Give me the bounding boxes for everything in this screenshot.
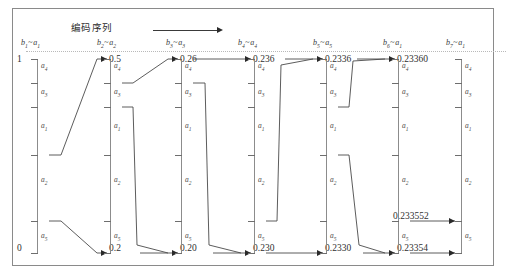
connector-6-7 — [13, 9, 495, 267]
col7-symbol-2: a1 — [465, 121, 471, 132]
col7-symbol-1: a3 — [465, 87, 471, 98]
figure-frame: 编码序列 b1~a1 b2~a2 b3~a3 b4~a4 b5~a5 b6~a1… — [12, 8, 494, 266]
arithmetic-coding-figure: 编码序列 b1~a1 b2~a2 b3~a3 b4~a4 b5~a5 b6~a1… — [0, 0, 506, 275]
col7-symbol-3: a2 — [465, 175, 471, 186]
col7-tick-3 — [455, 155, 462, 156]
col7-tick-2 — [455, 107, 462, 108]
col7-symbol-0: a4 — [465, 61, 471, 72]
col7-tick-0 — [455, 59, 462, 60]
col7-tick-1 — [455, 83, 462, 84]
col7-tick-4 — [455, 221, 462, 222]
col7-axis — [461, 59, 462, 253]
col7-symbol-4: a5 — [465, 231, 471, 242]
col7-tick-5 — [455, 253, 462, 254]
